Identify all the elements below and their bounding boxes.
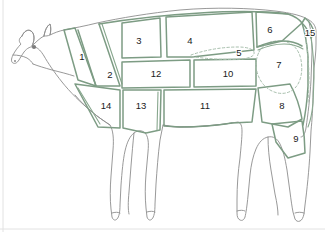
cut-label-15: 15 (305, 27, 316, 38)
cut-label-6: 6 (267, 24, 272, 35)
cut-label-5: 5 (236, 47, 241, 58)
cut-label-2: 2 (107, 69, 112, 80)
cut-label-7: 7 (276, 59, 281, 70)
cut-label-14: 14 (101, 100, 112, 111)
cut-label-8: 8 (279, 100, 284, 111)
cut-label-1: 1 (79, 51, 84, 62)
cut-label-9: 9 (293, 133, 298, 144)
cow-illustration: 1 2 3 4 5 6 7 8 9 10 11 12 13 14 15 (0, 0, 325, 232)
nostril-icon (14, 60, 16, 62)
cut-label-11: 11 (200, 100, 210, 111)
beef-cuts-diagram: 1 2 3 4 5 6 7 8 9 10 11 12 13 14 15 (0, 0, 325, 232)
eye-icon (32, 45, 36, 49)
cut-label-3: 3 (136, 35, 141, 46)
cut-label-12: 12 (151, 68, 162, 79)
cut-label-10: 10 (223, 68, 234, 79)
front-leg-inner-line (128, 133, 134, 214)
hind-leg-inner-line (268, 137, 278, 215)
cut-label-13: 13 (136, 100, 147, 111)
cut-label-4: 4 (187, 35, 192, 46)
